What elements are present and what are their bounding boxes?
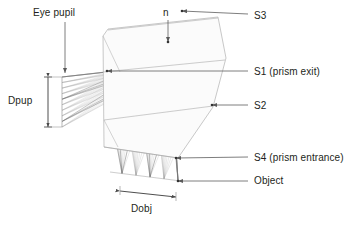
ray-object-to-s4 bbox=[150, 155, 157, 177]
ray-object-to-s4 bbox=[136, 153, 144, 175]
label-s1-prism-exit: S1 (prism exit) bbox=[254, 66, 320, 77]
leader-anchor-dot bbox=[211, 104, 214, 107]
ray-object-to-s4 bbox=[136, 152, 140, 175]
ray-trace-diagram: Eye pupil n Dpup Dobj S3 S1 (prism exit)… bbox=[0, 0, 357, 225]
leader-anchor-dot bbox=[106, 70, 109, 73]
label-eye-pupil: Eye pupil bbox=[33, 7, 75, 18]
leader-anchor-dot bbox=[177, 180, 180, 183]
label-s4-prism-entrance: S4 (prism entrance) bbox=[254, 152, 344, 163]
dimension-dobj bbox=[120, 191, 176, 197]
label-object: Object bbox=[254, 175, 284, 186]
surface-object bbox=[110, 172, 181, 181]
prism-outline-group bbox=[103, 17, 226, 158]
leader-anchor-dot bbox=[175, 157, 178, 160]
prism-body bbox=[103, 17, 226, 158]
leader-s3 bbox=[182, 11, 248, 14]
label-s3: S3 bbox=[254, 10, 266, 21]
label-n: n bbox=[163, 7, 169, 18]
leader-anchor-dot bbox=[167, 41, 170, 44]
leader-anchor-dot bbox=[181, 10, 184, 13]
label-dpup: Dpup bbox=[8, 95, 32, 106]
label-s2: S2 bbox=[254, 100, 266, 111]
ray-trace-canvas bbox=[0, 0, 357, 225]
leader-s4 bbox=[176, 157, 248, 158]
label-dobj: Dobj bbox=[131, 203, 152, 214]
